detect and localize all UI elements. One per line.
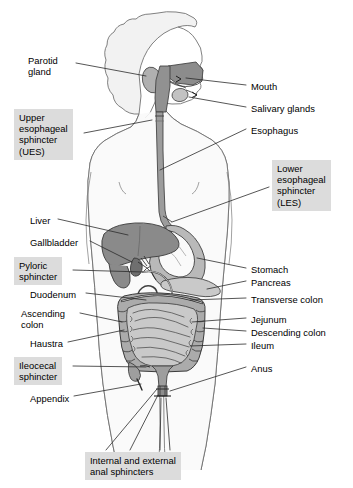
label-ileum: Ileum	[251, 340, 274, 351]
label-liver: Liver	[30, 215, 50, 226]
oral-cavity-shape	[168, 62, 203, 85]
label-mouth: Mouth	[251, 81, 277, 92]
label-descending-colon: Descending colon	[251, 327, 326, 338]
gallbladder-shape	[130, 258, 142, 276]
label-transverse-colon: Transverse colon	[251, 294, 323, 305]
small-intestine	[127, 303, 198, 366]
label-anal-sphincters: Internal and external anal sphincters	[85, 452, 181, 480]
label-gallbladder: Gallbladder	[30, 237, 78, 248]
label-pyloric-sphincter: Pyloric sphincter	[14, 257, 62, 285]
label-ascending-colon: Ascending colon	[21, 308, 65, 330]
small-intestine-mass	[127, 303, 198, 366]
digestive-system-figure: Parotid gland Upper esophageal sphincter…	[0, 0, 353, 488]
label-upper-esophageal-sphincter: Upper esophageal sphincter (UES)	[14, 109, 73, 160]
anal-canal-shape	[158, 386, 167, 396]
head-organs	[140, 62, 203, 112]
label-esophagus: Esophagus	[251, 125, 298, 136]
leader-salivary	[189, 97, 246, 107]
label-ileocecal-sphincter: Ileocecal sphincter	[14, 357, 62, 385]
label-parotid-gland: Parotid gland	[28, 55, 58, 77]
label-duodenum: Duodenum	[30, 289, 76, 300]
label-salivary-glands: Salivary glands	[251, 103, 315, 114]
label-pancreas: Pancreas	[251, 277, 291, 288]
label-lower-esophageal-sphincter: Lower esophageal sphincter (LES)	[272, 160, 331, 211]
label-anus: Anus	[251, 363, 272, 374]
label-haustra: Haustra	[30, 338, 63, 349]
label-stomach: Stomach	[251, 264, 288, 275]
label-jejunum: Jejunum	[251, 314, 287, 325]
label-appendix: Appendix	[30, 393, 69, 404]
